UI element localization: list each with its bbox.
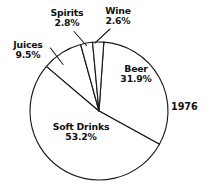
pie-label-spirits: Spirits 2.8%: [38, 8, 96, 29]
pie-label-spirits-value: 2.8%: [38, 18, 96, 28]
pie-label-beer: Beer 31.9%: [108, 64, 164, 85]
pie-label-wine: Wine 2.6%: [93, 6, 143, 27]
pie-chart: Spirits 2.8% Wine 2.6% Juices 9.5% Beer …: [0, 0, 214, 191]
chart-year-annotation: 1976: [171, 101, 198, 112]
pie-label-beer-value: 31.9%: [108, 74, 164, 84]
pie-label-soft-drinks-value: 53.2%: [38, 132, 124, 142]
leader-line-wine: [95, 29, 110, 43]
pie-chart-canvas: [0, 0, 214, 191]
pie-label-juices: Juices 9.5%: [2, 40, 54, 61]
leader-line-spirits: [74, 32, 87, 46]
pie-label-soft-drinks: Soft Drinks 53.2%: [38, 122, 124, 143]
pie-label-wine-value: 2.6%: [93, 16, 143, 26]
pie-label-juices-value: 9.5%: [2, 50, 54, 60]
